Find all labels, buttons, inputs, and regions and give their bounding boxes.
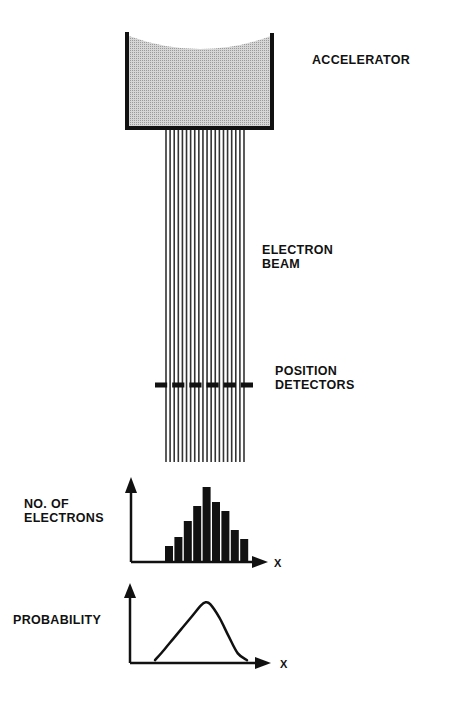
label-position-detectors-line2: DETECTORS — [275, 378, 355, 392]
detector-dash — [224, 383, 236, 388]
label-electron-beam-line2: BEAM — [262, 257, 333, 271]
detector-dash — [207, 383, 219, 388]
label-no-of-electrons-line2: ELECTRONS — [24, 511, 104, 525]
histogram-chart — [125, 477, 268, 568]
label-electron-beam: ELECTRON BEAM — [262, 243, 333, 271]
histogram-bar — [193, 506, 201, 561]
electron-beam — [166, 130, 244, 462]
histogram-bar — [203, 487, 211, 561]
label-no-of-electrons-line1: NO. OF — [24, 497, 104, 511]
probability-x-arrow — [255, 657, 271, 669]
histogram-bar — [165, 546, 173, 561]
histogram-x-label: X — [274, 556, 282, 570]
label-no-of-electrons: NO. OF ELECTRONS — [24, 497, 104, 525]
histogram-bar — [184, 521, 192, 561]
probability-curve — [155, 602, 247, 660]
label-position-detectors-line1: POSITION — [275, 364, 355, 378]
probability-y-arrow — [124, 583, 136, 598]
detector-dash — [172, 383, 184, 388]
histogram-x-arrow — [252, 556, 268, 568]
histogram-bar — [231, 530, 239, 561]
label-accelerator: ACCELERATOR — [312, 53, 410, 67]
histogram-bar — [174, 537, 182, 561]
detector-dash — [155, 383, 167, 388]
accelerator-vessel — [127, 32, 272, 128]
label-electron-beam-line1: ELECTRON — [262, 243, 333, 257]
accelerator-fill — [129, 36, 271, 126]
label-probability: PROBABILITY — [13, 613, 101, 627]
histogram-bar — [240, 539, 248, 561]
histogram-bars — [165, 487, 248, 561]
histogram-bar — [212, 502, 220, 561]
probability-chart — [124, 583, 271, 669]
label-position-detectors: POSITION DETECTORS — [275, 364, 355, 392]
probability-x-label: X — [280, 657, 288, 671]
histogram-bar — [221, 511, 229, 561]
detector-dash — [241, 383, 253, 388]
diagram-canvas — [0, 0, 455, 709]
detector-dash — [189, 383, 201, 388]
histogram-y-arrow — [125, 477, 137, 493]
